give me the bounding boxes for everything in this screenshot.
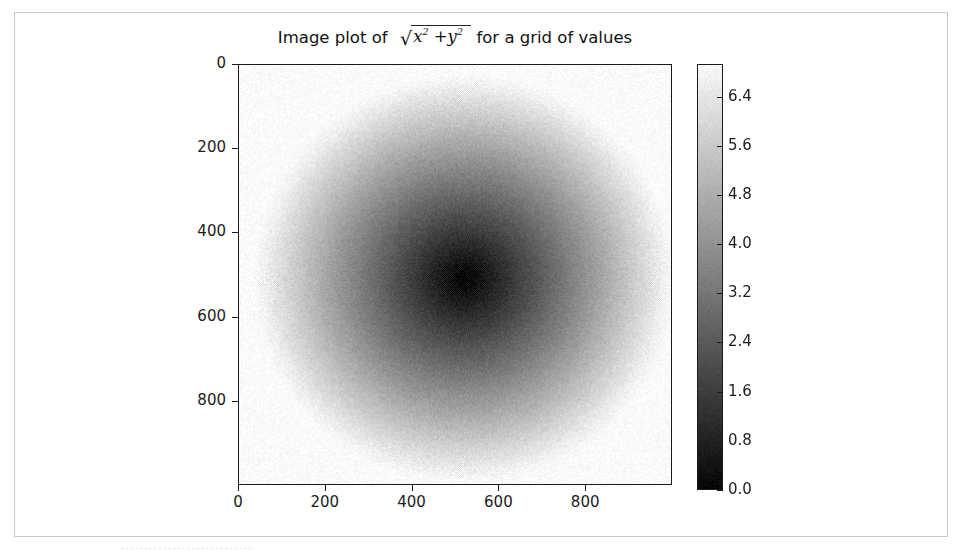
y-tick-label: 800	[166, 391, 226, 409]
matplotlib-figure: Image plot of √x2 +y2 for a grid of valu…	[0, 0, 964, 555]
colorbar-tick-label: 0.0	[728, 480, 752, 498]
colorbar-tick-mark	[717, 97, 723, 98]
radicand-exp-y: 2	[457, 26, 463, 37]
colorbar-texture	[698, 65, 722, 489]
colorbar-tick-mark	[717, 392, 723, 393]
y-tick-mark	[232, 232, 238, 233]
colorbar-tick-mark	[717, 441, 723, 442]
colorbar-tick-label: 0.8	[728, 431, 752, 449]
y-tick-mark	[232, 401, 238, 402]
colorbar-tick-label: 3.2	[728, 283, 752, 301]
radicand-exp-x: 2	[422, 26, 428, 37]
x-tick-label: 0	[208, 493, 268, 511]
plot-title: Image plot of √x2 +y2 for a grid of valu…	[238, 26, 672, 48]
colorbar-tick-label: 5.6	[728, 136, 752, 154]
colorbar-tick-label: 4.8	[728, 185, 752, 203]
x-tick-label: 200	[295, 493, 355, 511]
radicand-var-y: y	[448, 27, 457, 46]
colorbar-tick-mark	[717, 244, 723, 245]
x-tick-label: 800	[555, 493, 615, 511]
heatmap-axes	[238, 64, 672, 485]
y-tick-mark	[232, 64, 238, 65]
colorbar-tick-mark	[717, 342, 723, 343]
colorbar-tick-label: 4.0	[728, 234, 752, 252]
radicand-plus: +	[434, 27, 448, 46]
colorbar	[697, 64, 723, 490]
y-tick-label: 400	[166, 222, 226, 240]
x-tick-mark	[238, 485, 239, 491]
radicand: x2 +y2	[411, 25, 471, 46]
sqrt-expression: √x2 +y2	[393, 26, 471, 48]
y-tick-label: 0	[166, 54, 226, 72]
plot-title-prefix: Image plot of	[278, 28, 388, 47]
plot-title-suffix: for a grid of values	[476, 28, 632, 47]
colorbar-tick-mark	[717, 293, 723, 294]
heatmap-image	[239, 65, 671, 484]
y-tick-mark	[232, 317, 238, 318]
colorbar-tick-label: 2.4	[728, 332, 752, 350]
x-tick-mark	[585, 485, 586, 491]
y-tick-label: 200	[166, 138, 226, 156]
x-tick-mark	[325, 485, 326, 491]
x-tick-label: 600	[468, 493, 528, 511]
x-tick-mark	[498, 485, 499, 491]
y-tick-mark	[232, 148, 238, 149]
colorbar-tick-mark	[717, 146, 723, 147]
x-tick-mark	[412, 485, 413, 491]
x-tick-label: 400	[382, 493, 442, 511]
colorbar-tick-label: 1.6	[728, 382, 752, 400]
colorbar-tick-mark	[717, 195, 723, 196]
colorbar-tick-mark	[717, 490, 723, 491]
y-tick-label: 600	[166, 307, 226, 325]
colorbar-tick-label: 6.4	[728, 87, 752, 105]
